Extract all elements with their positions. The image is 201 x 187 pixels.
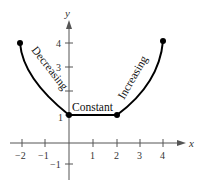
x-axis-arrow-icon — [177, 140, 186, 146]
decreasing-label: Decreasing — [29, 44, 71, 93]
x-tick-label: 4 — [160, 150, 165, 161]
increasing-label: Increasing — [115, 53, 150, 101]
y-tick-label: −1 — [50, 159, 61, 170]
y-tick-label: 1 — [58, 112, 63, 123]
x-tick-label: 3 — [137, 150, 142, 161]
y-axis-label: y — [64, 7, 70, 19]
x-ticks: −2 −1 1 2 3 4 — [15, 139, 165, 161]
endpoint-left — [17, 40, 23, 46]
y-axis-arrow-icon — [66, 20, 72, 29]
increasing-segment — [117, 41, 163, 115]
x-tick-label: −2 — [15, 150, 26, 161]
x-axis-label: x — [188, 137, 194, 149]
x-tick-label: −1 — [38, 150, 49, 161]
y-tick-label: 4 — [56, 38, 61, 49]
y-ticks: 4 3 1 −1 — [50, 38, 73, 170]
x-tick-label: 2 — [114, 150, 119, 161]
function-graph: x y −2 −1 1 2 3 4 4 3 1 −1 Decreasing — [0, 0, 201, 187]
x-tick-label: 1 — [90, 150, 95, 161]
constant-label: Constant — [72, 101, 114, 113]
endpoint-right — [160, 38, 166, 44]
point-2-1 — [114, 112, 120, 118]
